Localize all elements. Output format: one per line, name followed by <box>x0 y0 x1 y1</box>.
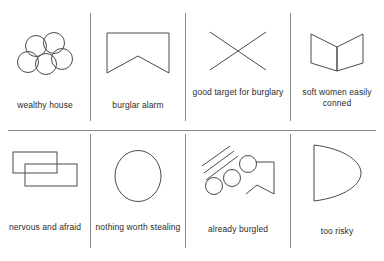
notched-rectangle-alarm-icon <box>92 16 184 94</box>
grid-cell-wealthy-house: wealthy house <box>2 16 88 124</box>
grid-cell-soft-women: soft women easily conned <box>292 16 382 124</box>
cell-label: wealthy house <box>2 100 88 111</box>
open-book-icon <box>292 16 382 86</box>
grid-cell-nothing-worth-stealing: nothing worth stealing <box>92 140 184 250</box>
grid-cell-already-burgled: already burgled <box>187 140 289 250</box>
cell-label: burglar alarm <box>92 100 184 111</box>
grid-cell-good-target: good target for burglary <box>187 16 289 124</box>
oval-icon <box>92 140 184 212</box>
cell-label: already burgled <box>187 224 289 235</box>
two-overlapping-rectangles-icon <box>2 140 88 202</box>
hatch-lines-circles-notched-shape-icon <box>187 140 289 206</box>
horizontal-divider <box>8 130 376 131</box>
d-shape-semicircle-icon <box>292 140 382 206</box>
grid-cell-nervous-afraid: nervous and afraid <box>2 140 88 250</box>
vertical-divider-5 <box>185 134 186 248</box>
grid-cell-too-risky: too risky <box>292 140 382 250</box>
cell-label: soft women easily conned <box>292 87 382 108</box>
vertical-divider-4 <box>90 134 91 248</box>
vertical-divider-3 <box>290 13 291 121</box>
grid-cell-burglar-alarm: burglar alarm <box>92 16 184 124</box>
vertical-divider-1 <box>90 13 91 121</box>
cell-label: nothing worth stealing <box>92 222 184 233</box>
vertical-divider-6 <box>290 134 291 248</box>
vertical-divider-2 <box>185 13 186 121</box>
icon-grid-diagram: wealthy house burglar alarm good target … <box>0 0 384 261</box>
five-circles-cluster-icon <box>2 16 88 94</box>
cell-label: too risky <box>292 226 382 237</box>
cell-label: nervous and afraid <box>2 222 88 233</box>
x-cross-icon <box>187 16 289 86</box>
cell-label: good target for burglary <box>187 87 289 98</box>
